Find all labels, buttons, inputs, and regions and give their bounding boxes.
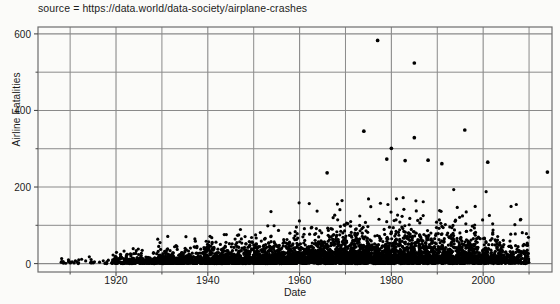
data-point (474, 205, 477, 208)
data-point (125, 254, 128, 257)
data-point (327, 229, 330, 232)
data-point (415, 209, 418, 212)
data-point (254, 233, 257, 236)
data-point (461, 214, 464, 217)
data-point (71, 260, 74, 263)
data-point (431, 251, 434, 254)
data-point (525, 232, 528, 235)
data-point (394, 218, 397, 221)
data-point (295, 242, 298, 245)
data-point (418, 233, 421, 236)
data-point (441, 253, 444, 256)
data-point (321, 252, 324, 255)
data-point (397, 256, 400, 259)
data-point (180, 261, 183, 264)
data-point (466, 243, 469, 246)
data-point (491, 228, 494, 231)
data-point (465, 246, 468, 249)
data-point (345, 241, 348, 244)
data-point (416, 219, 419, 222)
data-point (193, 237, 196, 240)
data-point (479, 255, 482, 258)
data-point (408, 217, 411, 220)
data-point (521, 244, 524, 247)
data-point (456, 250, 459, 253)
data-point (355, 251, 358, 254)
data-point (338, 233, 341, 236)
data-point (299, 242, 302, 245)
data-point (280, 261, 283, 264)
data-point (519, 218, 522, 221)
data-point (511, 252, 514, 255)
data-point (335, 235, 338, 238)
data-point (302, 241, 305, 244)
data-point (465, 230, 468, 233)
data-point (441, 244, 444, 247)
data-point (476, 246, 479, 249)
data-point (157, 253, 160, 256)
data-point (350, 234, 353, 237)
data-point (505, 259, 508, 262)
data-point (483, 237, 486, 240)
data-point (307, 259, 310, 262)
data-point (502, 239, 505, 242)
data-point (288, 250, 291, 253)
data-point (546, 170, 550, 174)
data-point (202, 261, 205, 264)
data-point (148, 261, 151, 264)
data-point (125, 262, 128, 265)
data-point (457, 241, 460, 244)
data-point (388, 242, 391, 245)
data-point (263, 238, 266, 241)
data-point (404, 242, 407, 245)
data-point (373, 234, 376, 237)
data-point (277, 229, 280, 232)
data-point (517, 260, 520, 263)
data-point (412, 61, 416, 65)
data-point (237, 253, 240, 256)
data-point (463, 259, 466, 262)
data-point (301, 259, 304, 262)
data-point (405, 254, 408, 257)
data-point (290, 255, 293, 258)
data-point (398, 244, 401, 247)
data-point (129, 252, 132, 255)
data-point (339, 247, 342, 250)
data-point (470, 253, 473, 256)
data-point (487, 243, 490, 246)
data-point (307, 253, 310, 256)
data-point (351, 256, 354, 259)
data-point (390, 244, 393, 247)
data-point (454, 219, 457, 222)
data-point (404, 231, 407, 234)
data-point (459, 238, 462, 241)
data-point (514, 244, 517, 247)
data-point (320, 242, 323, 245)
data-point (369, 205, 372, 208)
data-point (341, 236, 344, 239)
data-point (401, 227, 404, 230)
data-point (217, 261, 220, 264)
data-point (339, 225, 342, 228)
data-point (463, 128, 467, 132)
data-point (481, 218, 484, 221)
data-point (320, 261, 323, 264)
data-point (479, 237, 482, 240)
data-point (164, 260, 167, 263)
data-point (140, 252, 143, 255)
data-point (298, 219, 301, 222)
data-point (320, 257, 323, 260)
data-point (249, 259, 252, 262)
data-point (132, 247, 135, 250)
data-point (202, 246, 205, 249)
data-point (352, 248, 355, 251)
data-point (481, 252, 484, 255)
data-point (455, 255, 458, 258)
data-point (422, 244, 425, 247)
data-point (245, 248, 248, 251)
data-point (439, 222, 442, 225)
data-point (397, 234, 400, 237)
data-point (349, 251, 352, 254)
data-point (370, 254, 373, 257)
data-point (364, 229, 367, 232)
